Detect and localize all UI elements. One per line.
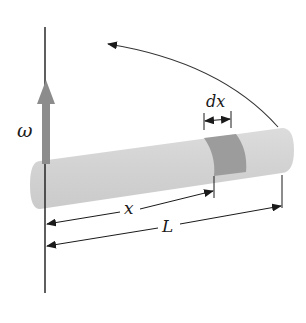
diagram-svg: ω dx x L	[0, 0, 306, 323]
rotation-direction-arc	[108, 44, 278, 127]
L-label: L	[161, 216, 173, 236]
x-label: x	[124, 198, 134, 218]
rod	[30, 128, 294, 209]
rotating-rod-diagram: ω dx x L	[0, 0, 306, 323]
dx-dimension	[204, 111, 231, 130]
omega-label: ω	[17, 119, 33, 141]
angular-velocity-arrow	[37, 80, 55, 164]
dx-label: dx	[206, 92, 225, 111]
